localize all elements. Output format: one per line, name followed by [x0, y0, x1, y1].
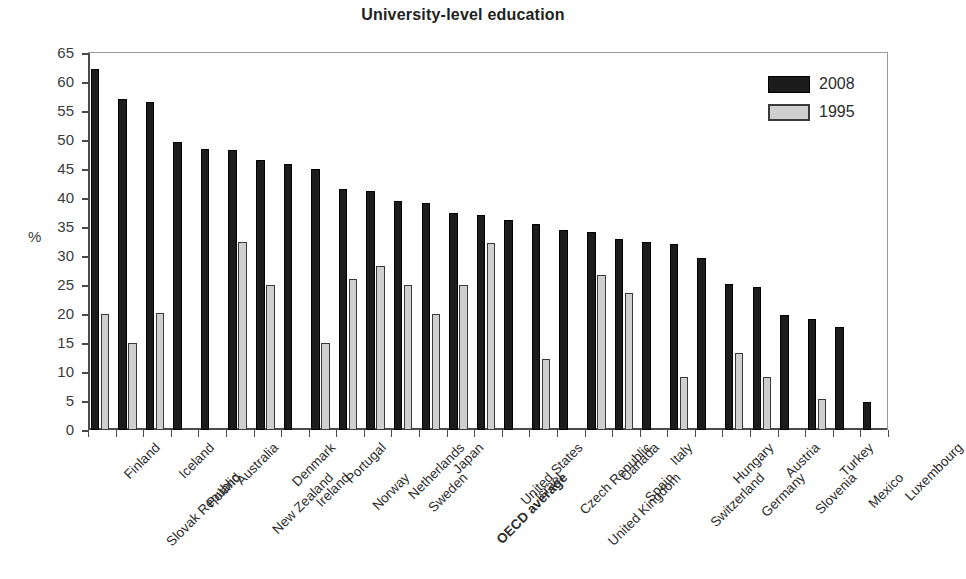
x-axis-label-italy: Italy — [667, 440, 695, 468]
bar-2008-japan — [422, 203, 431, 430]
x-tick-mark — [502, 430, 503, 437]
x-tick-mark — [447, 430, 448, 437]
bar-1995-new-zealand — [238, 242, 247, 431]
x-tick-mark — [750, 430, 751, 437]
chart-title: University-level education — [0, 6, 926, 24]
bar-1995-japan — [432, 314, 441, 430]
bar-1995-canada — [597, 275, 606, 430]
x-tick-mark — [529, 430, 530, 437]
y-tick-mark — [82, 372, 89, 374]
x-axis-label-turkey: Turkey — [837, 440, 876, 479]
y-tick-label: 40 — [32, 190, 74, 205]
x-tick-mark — [474, 430, 475, 437]
x-tick-mark — [888, 430, 889, 437]
legend-swatch-1995 — [768, 104, 810, 121]
plot-top-border — [88, 52, 888, 53]
bar-1995-netherlands — [376, 266, 385, 430]
bar-1995-denmark — [266, 285, 275, 430]
x-tick-mark — [419, 430, 420, 437]
y-tick-mark — [82, 227, 89, 229]
y-tick-mark — [82, 140, 89, 142]
y-tick-label: 5 — [32, 393, 74, 408]
y-tick-mark — [82, 169, 89, 171]
bar-1995-switzerland — [680, 377, 689, 430]
y-tick-label: 35 — [32, 219, 74, 234]
y-tick-label: 65 — [32, 45, 74, 60]
bar-2008-spain — [615, 239, 624, 430]
x-tick-mark — [640, 430, 641, 437]
y-tick-label: 15 — [32, 335, 74, 350]
y-tick-mark — [82, 401, 89, 403]
bar-2008-mexico — [835, 327, 844, 430]
x-tick-mark — [226, 430, 227, 437]
bar-2008-luxembourg — [863, 402, 872, 430]
x-tick-mark — [88, 430, 89, 437]
legend-item-2008[interactable]: 2008 — [768, 70, 855, 98]
y-tick-label: 25 — [32, 277, 74, 292]
bar-2008-italy — [642, 242, 651, 431]
legend-item-1995[interactable]: 1995 — [768, 98, 855, 126]
bar-2008-netherlands — [366, 191, 375, 430]
bar-1995-norway — [349, 279, 358, 430]
x-tick-mark — [805, 430, 806, 437]
x-tick-mark — [722, 430, 723, 437]
y-tick-label: 45 — [32, 161, 74, 176]
x-tick-mark — [364, 430, 365, 437]
x-tick-mark — [833, 430, 834, 437]
bar-1995-united-states — [487, 243, 496, 430]
bar-1995-turkey — [818, 399, 827, 430]
y-tick-label: 30 — [32, 248, 74, 263]
x-tick-mark — [116, 430, 117, 437]
bar-2008-germany — [725, 284, 734, 430]
bar-2008-slovenia — [780, 315, 789, 430]
x-tick-mark — [695, 430, 696, 437]
y-tick-label: 0 — [32, 422, 74, 437]
y-tick-mark — [82, 343, 89, 345]
x-axis-label-finland: Finland — [121, 440, 163, 482]
y-tick-mark — [82, 285, 89, 287]
x-tick-mark — [585, 430, 586, 437]
bar-1995-czech-republic — [542, 359, 551, 430]
bar-2008-united-states — [477, 215, 486, 430]
x-tick-mark — [667, 430, 668, 437]
bar-1995-portugal — [321, 343, 330, 430]
y-tick-mark — [82, 111, 89, 113]
bar-2008-czech-republic — [532, 224, 541, 430]
bar-1995-sweden — [404, 285, 413, 430]
bar-2008-iceland — [146, 102, 155, 430]
y-tick-label: 10 — [32, 364, 74, 379]
plot-right-border — [887, 53, 888, 430]
bar-2008-united-kingdom — [559, 230, 568, 430]
x-axis-label-slovenia: Slovenia — [813, 470, 860, 517]
y-tick-label: 50 — [32, 132, 74, 147]
x-tick-mark — [281, 430, 282, 437]
x-tick-mark — [198, 430, 199, 437]
x-axis-label-mexico: Mexico — [865, 470, 906, 511]
x-axis-label-portugal: Portugal — [343, 440, 389, 486]
y-tick-label: 60 — [32, 74, 74, 89]
x-tick-mark — [254, 430, 255, 437]
bar-2008-australia — [201, 149, 210, 430]
x-tick-mark — [391, 430, 392, 437]
x-tick-mark — [778, 430, 779, 437]
x-axis-label-germany: Germany — [759, 470, 809, 520]
x-tick-mark — [612, 430, 613, 437]
bar-2008-portugal — [311, 169, 320, 430]
bar-2008-switzerland — [670, 244, 679, 430]
y-tick-mark — [82, 53, 89, 55]
x-tick-mark — [143, 430, 144, 437]
bar-1995-oecd-average — [459, 285, 468, 430]
bar-2008-hungary — [697, 258, 706, 430]
y-tick-mark — [82, 198, 89, 200]
bar-2008-finland — [91, 69, 100, 430]
x-tick-mark — [336, 430, 337, 437]
bar-1995-austria — [763, 377, 772, 430]
x-axis-label-australia: Australia — [234, 440, 282, 488]
bar-2008-turkey — [808, 319, 817, 430]
bar-2008-new-zealand — [228, 150, 237, 430]
bar-1995-germany — [735, 353, 744, 430]
x-axis-label-iceland: Iceland — [176, 440, 217, 481]
bar-2008-denmark — [256, 160, 265, 430]
bar-1995-finland — [101, 314, 110, 430]
